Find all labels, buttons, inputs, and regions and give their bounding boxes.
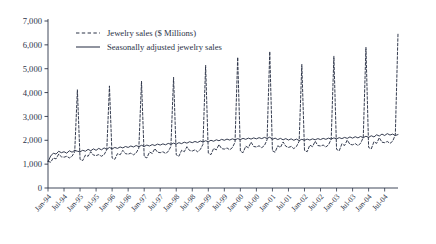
y-axis-tick-label: 3,000 xyxy=(23,112,42,122)
x-axis-tick-label: Jan-04 xyxy=(353,192,373,213)
x-axis-tick-label: Jan-97 xyxy=(129,192,149,213)
y-axis-tick-label: 0 xyxy=(38,183,42,193)
x-axis-tick-label: Jan-02 xyxy=(289,192,309,213)
legend-label: Jewelry sales ($ Millions) xyxy=(107,28,196,38)
x-axis: Jan-94Jul-94Jan-95Jul-95Jan-96Jul-96Jan-… xyxy=(33,188,398,213)
y-axis-tick-label: 6,000 xyxy=(23,40,42,50)
x-axis-tick-label: Jan-96 xyxy=(97,192,117,213)
data-series xyxy=(48,33,398,162)
y-axis-tick-label: 7,000 xyxy=(23,16,42,26)
legend-label: Seasonally adjusted jewelry sales xyxy=(107,42,222,52)
x-axis-tick-label: Jan-98 xyxy=(161,192,181,213)
y-axis-tick-label: 5,000 xyxy=(23,64,42,74)
x-axis-tick-label: Jul-04 xyxy=(370,192,390,212)
y-axis-tick-label: 1,000 xyxy=(23,159,42,169)
y-axis-tick-label: 4,000 xyxy=(23,88,42,98)
series-line-seasonally-adjusted xyxy=(48,134,398,162)
y-axis-tick-label: 2,000 xyxy=(23,135,42,145)
y-axis: 01,0002,0003,0004,0005,0006,0007,000 xyxy=(23,16,48,193)
chart-canvas: 01,0002,0003,0004,0005,0006,0007,000 Jan… xyxy=(0,0,436,244)
chart-legend: Jewelry sales ($ Millions)Seasonally adj… xyxy=(76,28,222,52)
x-axis-tick-label: Jan-00 xyxy=(225,192,245,213)
x-axis-tick-label: Jan-03 xyxy=(321,192,341,213)
x-axis-tick-label: Jan-95 xyxy=(65,192,85,213)
x-axis-tick-label: Jan-94 xyxy=(33,192,53,213)
x-axis-tick-label: Jan-99 xyxy=(193,192,213,213)
series-line-jewelry-sales xyxy=(48,33,398,162)
jewelry-sales-chart: 01,0002,0003,0004,0005,0006,0007,000 Jan… xyxy=(0,0,436,244)
x-axis-tick-label: Jan-01 xyxy=(257,192,277,213)
